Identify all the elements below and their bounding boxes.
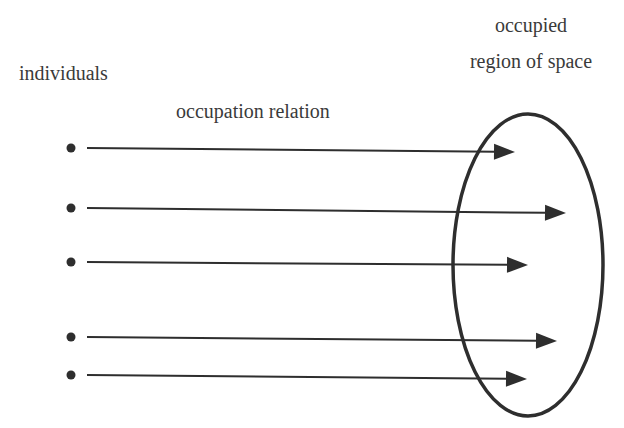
individual-row xyxy=(67,257,529,273)
individual-rows xyxy=(67,144,567,387)
individual-dot xyxy=(67,258,76,267)
occupation-arrow-shaft xyxy=(87,208,547,213)
arrowhead-icon xyxy=(507,257,528,273)
individual-row xyxy=(67,144,516,160)
occupation-arrow-shaft xyxy=(87,262,509,265)
individual-dot xyxy=(67,333,76,342)
occupation-diagram: individuals occupation relation occupied… xyxy=(0,0,624,428)
occupation-relation-label: occupation relation xyxy=(176,100,330,123)
occupation-arrow-shaft xyxy=(87,375,508,379)
individual-dot xyxy=(67,144,76,153)
arrowhead-icon xyxy=(536,333,557,349)
individual-dot xyxy=(67,371,76,380)
individual-dot xyxy=(67,204,76,213)
individual-row xyxy=(67,204,567,221)
individuals-label: individuals xyxy=(19,62,108,84)
arrowhead-icon xyxy=(494,144,515,160)
occupation-arrow-shaft xyxy=(87,148,496,152)
individual-row xyxy=(67,371,528,387)
region-label-line2: region of space xyxy=(470,50,592,73)
arrowhead-icon xyxy=(506,371,527,387)
individual-row xyxy=(67,333,558,349)
region-label-line1: occupied xyxy=(495,14,567,37)
arrowhead-icon xyxy=(545,205,566,221)
occupation-arrow-shaft xyxy=(87,337,538,341)
